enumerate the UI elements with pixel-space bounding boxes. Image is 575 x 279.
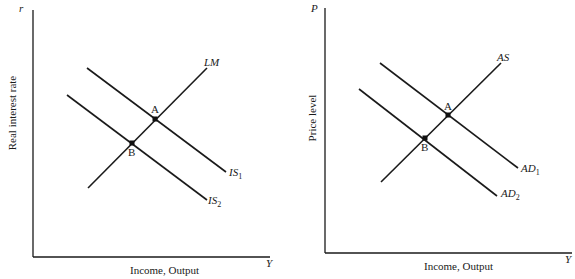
diagram-canvas [0, 0, 575, 279]
lm-curve [88, 68, 207, 188]
ad2-label-text: AD [501, 187, 516, 199]
point-b-label: B [128, 146, 135, 158]
ad1-label: AD1 [521, 162, 540, 177]
left-y-axis-label: Real interest rate [6, 58, 18, 168]
right-curves [359, 63, 518, 196]
point-a-marker [153, 117, 158, 122]
right-axes [325, 8, 572, 253]
lm-label: LM [204, 56, 219, 68]
is2-label-sub: 2 [217, 200, 221, 209]
left-axes [33, 10, 270, 257]
is2-label-text: IS [208, 194, 217, 206]
is1-label-text: IS [229, 166, 238, 178]
point-b-marker [130, 141, 135, 146]
ad1-label-sub: 1 [536, 168, 540, 177]
is1-label: IS1 [229, 166, 242, 181]
left-y-axis-symbol: r [19, 2, 23, 14]
right-x-axis-label: Income, Output [424, 260, 493, 272]
point-b-marker-right [423, 136, 428, 141]
point-a-marker-right [446, 113, 451, 118]
is2-label: IS2 [208, 194, 221, 209]
left-curves [67, 68, 226, 200]
ad2-label-sub: 2 [516, 193, 520, 202]
point-b-label-right: B [421, 141, 428, 153]
right-x-axis-symbol: Y [565, 253, 571, 265]
point-a-label-right: A [444, 100, 452, 112]
as-curve [381, 63, 501, 182]
point-a-label: A [151, 103, 159, 115]
is1-label-sub: 1 [238, 172, 242, 181]
left-x-axis-symbol: Y [266, 257, 272, 269]
is2-curve [67, 95, 207, 200]
left-x-axis-label: Income, Output [130, 264, 199, 276]
as-label: AS [497, 51, 509, 63]
ad1-label-text: AD [521, 162, 536, 174]
right-y-axis-label: Price level [306, 78, 318, 158]
ad2-label: AD2 [501, 187, 520, 202]
right-y-axis-symbol: P [311, 2, 318, 14]
